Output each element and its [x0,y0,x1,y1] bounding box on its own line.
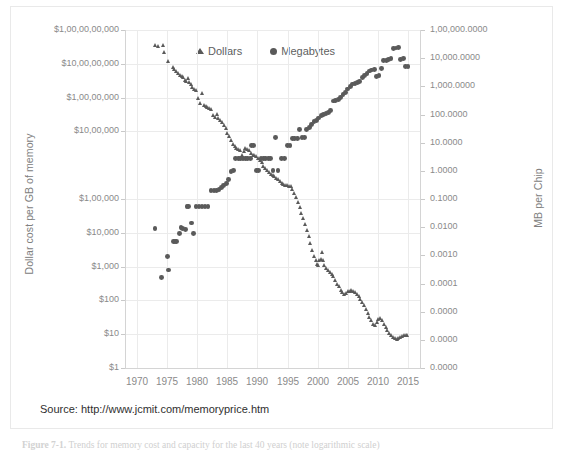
legend-label-megabytes: Megabytes [281,45,335,57]
y-axis-right-tickmark-1 [421,58,425,59]
y-axis-left-tick-2: $100 [47,295,119,304]
data-point-dollars [310,248,314,252]
legend-item-dollars: Dollars [196,45,242,57]
data-point-dollars [405,333,409,337]
y-axis-right-tickmark-8 [421,255,425,256]
y-axis-left-tick-6: $10,00,000 [47,126,119,135]
gridline-vertical-0 [137,30,138,368]
y-axis-right-tick-11: 0.0000 [430,335,510,344]
y-axis-right-tickmark-7 [421,227,425,228]
data-point-megabytes [256,168,261,173]
data-point-megabytes [206,204,211,209]
y-axis-right-tick-10: 0.0000 [430,307,510,316]
y-axis-left-tick-9: $1,00,00,00,000 [47,25,119,34]
y-axis-right-tickmark-3 [421,115,425,116]
y-axis-right-tick-0: 1,00,000.0000 [430,25,510,34]
y-axis-right-tickmark-5 [421,171,425,172]
data-point-dollars [299,211,303,215]
data-point-megabytes [153,226,158,231]
y-axis-right-tick-5: 1.0000 [430,166,510,175]
data-point-megabytes [271,168,276,173]
data-point-megabytes [288,143,293,148]
data-point-megabytes [396,45,401,50]
y-axis-right-tickmark-10 [421,312,425,313]
data-point-megabytes [401,56,406,61]
gridline-horizontal-8 [125,64,420,65]
gridline-vertical-7 [348,30,349,368]
data-point-dollars [166,59,170,63]
data-point-megabytes [297,127,302,132]
x-axis-line [125,368,421,369]
data-point-dollars [305,228,309,232]
data-point-megabytes [276,168,281,173]
x-axis-tick-9: 2015 [388,377,428,386]
gridline-horizontal-1 [125,334,420,335]
data-point-dollars [194,88,198,92]
gridline-vertical-9 [408,30,409,368]
data-point-dollars [294,195,298,199]
chart-legend: Dollars Megabytes [196,45,335,57]
gridline-vertical-3 [227,30,228,368]
y-axis-right-tick-8: 0.0010 [430,250,510,259]
y-axis-right-tick-3: 100.0000 [430,110,510,119]
data-point-megabytes [295,136,300,141]
data-point-megabytes [389,56,394,61]
gridline-vertical-1 [167,30,168,368]
y-axis-right-tickmark-0 [421,30,425,31]
data-point-megabytes [328,108,333,113]
y-axis-right-tick-9: 0.0001 [430,279,510,288]
y-axis-left-tick-3: $1,000 [47,262,119,271]
y-axis-right-tickmark-2 [421,86,425,87]
y-axis-right-tickmark-12 [421,368,425,369]
y-axis-right-line [420,30,421,369]
y-axis-left-tick-0: $1 [47,363,119,372]
y-axis-left-tick-4: $10,000 [47,228,119,237]
figure-root: Dollar cost per GB of memory MB per Chip… [0,0,563,452]
data-point-megabytes [273,135,278,140]
y-axis-right-tick-1: 10,000.0000 [430,53,510,62]
gridline-vertical-4 [257,30,258,368]
data-point-megabytes [189,221,194,226]
gridline-vertical-6 [318,30,319,368]
data-point-megabytes [251,143,256,148]
figure-caption-number: Figure 7-1. [22,440,66,450]
y-axis-left-title: Dollar cost per GB of memory [23,114,35,294]
legend-label-dollars: Dollars [208,45,242,57]
gridline-horizontal-7 [125,98,420,99]
data-point-megabytes [166,268,171,273]
memory-price-chart: Dollar cost per GB of memory MB per Chip… [0,0,563,452]
data-point-dollars [161,43,165,47]
y-axis-right-tick-7: 0.0100 [430,222,510,231]
data-point-megabytes [159,275,164,280]
y-axis-right-tick-12: 0.0000 [430,363,510,372]
data-point-dollars [156,44,160,48]
data-point-megabytes [282,156,287,161]
y-axis-left-tick-7: $1,00,00,000 [47,93,119,102]
data-point-dollars [321,258,325,262]
gridline-horizontal-6 [125,131,420,132]
gridline-horizontal-2 [125,300,420,301]
data-point-dollars [292,191,296,195]
data-point-megabytes [406,64,411,69]
data-point-megabytes [379,66,384,71]
data-point-megabytes [224,181,229,186]
y-axis-right-tick-2: 1,000.0000 [430,81,510,90]
data-point-megabytes [302,135,307,140]
data-point-dollars [307,234,311,238]
data-point-megabytes [183,227,188,232]
data-point-megabytes [372,67,377,72]
data-point-megabytes [248,156,253,161]
y-axis-right-tick-4: 10.0000 [430,138,510,147]
data-point-megabytes [165,254,170,259]
y-axis-left-tick-8: $10,00,00,000 [47,59,119,68]
y-axis-right-tickmark-6 [421,199,425,200]
gridline-horizontal-9 [125,30,420,31]
data-point-megabytes [268,156,273,161]
y-axis-right-tickmark-4 [421,143,425,144]
data-point-dollars [316,263,320,267]
data-point-dollars [303,222,307,226]
gridline-horizontal-4 [125,233,420,234]
figure-caption-text: Trends for memory cost and capacity for … [68,440,379,450]
data-point-dollars [308,241,312,245]
data-point-dollars [209,107,213,111]
